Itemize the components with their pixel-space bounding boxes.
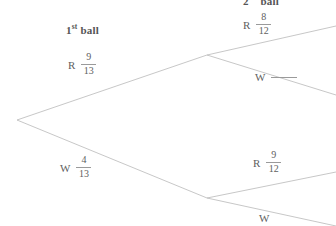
fraction-denominator: 12 bbox=[258, 26, 270, 37]
branch-outcome-letter: W bbox=[255, 71, 265, 83]
branch-outcome-letter: W bbox=[60, 162, 70, 174]
stage-header-first-rest: ball bbox=[78, 24, 99, 36]
branch-line-second-red-red bbox=[207, 26, 336, 55]
branch-label-first-white: W 4 13 bbox=[60, 155, 91, 180]
branch-outcome-letter: W bbox=[259, 212, 269, 224]
fraction-numerator: 9 bbox=[269, 150, 278, 161]
fraction-numerator: 8 bbox=[259, 12, 268, 23]
probability-fraction: 9 12 bbox=[266, 150, 281, 175]
branch-label-first-red: R 9 13 bbox=[68, 52, 96, 77]
fraction-numerator: 4 bbox=[79, 155, 88, 166]
stage-header-first-ball: 1st ball bbox=[66, 24, 99, 36]
probability-fraction-blank[interactable] bbox=[271, 76, 297, 79]
fraction-denominator: 12 bbox=[268, 164, 280, 175]
branch-label-second-white-red: R 9 12 bbox=[253, 150, 281, 175]
fraction-bar bbox=[271, 77, 297, 78]
stage-header-second-rest: ball bbox=[257, 0, 278, 7]
branch-line-first-white bbox=[17, 120, 207, 198]
branch-outcome-letter: R bbox=[68, 59, 75, 71]
branch-label-second-red-red: R 8 12 bbox=[243, 12, 271, 37]
branch-label-second-red-white: W bbox=[255, 71, 297, 83]
fraction-denominator: 13 bbox=[83, 66, 95, 77]
branch-outcome-letter: R bbox=[253, 157, 260, 169]
fraction-numerator: 9 bbox=[84, 52, 93, 63]
probability-fraction: 8 12 bbox=[256, 12, 271, 37]
branch-label-second-white-white: W bbox=[259, 212, 275, 224]
stage-header-second-ball: 2nd ball bbox=[243, 0, 279, 7]
fraction-denominator: 13 bbox=[78, 169, 90, 180]
branch-line-first-red bbox=[17, 55, 207, 120]
probability-fraction: 4 13 bbox=[76, 155, 91, 180]
branch-line-second-white-red bbox=[207, 172, 336, 198]
branch-outcome-letter: R bbox=[243, 19, 250, 31]
probability-tree-canvas bbox=[0, 0, 336, 226]
probability-fraction: 9 13 bbox=[81, 52, 96, 77]
